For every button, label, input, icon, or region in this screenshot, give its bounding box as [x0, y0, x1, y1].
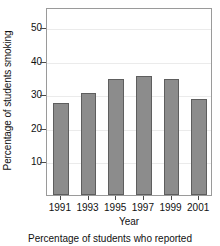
y-tick-label-30: 30: [16, 90, 42, 100]
bar-chart-figure: Percentage of students smoking 102030405…: [0, 0, 220, 246]
x-tick-label-2001: 2001: [181, 202, 215, 213]
x-tick-1993: [88, 196, 89, 200]
x-tick-1995: [115, 196, 116, 200]
gridline-10: [47, 163, 211, 164]
bar-1999: [164, 79, 179, 195]
x-tick-2001: [198, 196, 199, 200]
gridline-20: [47, 130, 211, 131]
x-tick-1997: [143, 196, 144, 200]
gridline-40: [47, 63, 211, 64]
y-axis-title: Percentage of students smoking: [0, 0, 16, 200]
y-tick-label-50: 50: [16, 23, 42, 33]
bar-2001: [191, 99, 206, 195]
x-tick-1999: [171, 196, 172, 200]
y-tick-label-10: 10: [16, 157, 42, 167]
y-tick-label-20: 20: [16, 124, 42, 134]
gridline-50: [47, 29, 211, 30]
x-tick-1991: [60, 196, 61, 200]
y-axis-title-text: Percentage of students smoking: [3, 30, 14, 170]
bar-1995: [108, 79, 123, 195]
bar-1993: [81, 93, 96, 195]
bar-1997: [136, 76, 151, 196]
plot-area: [46, 8, 212, 196]
gridline-30: [47, 96, 211, 97]
bar-1991: [53, 103, 68, 195]
x-axis-title: Year: [46, 216, 212, 227]
figure-caption: Percentage of students who reported: [0, 233, 220, 245]
y-tick-label-40: 40: [16, 57, 42, 67]
